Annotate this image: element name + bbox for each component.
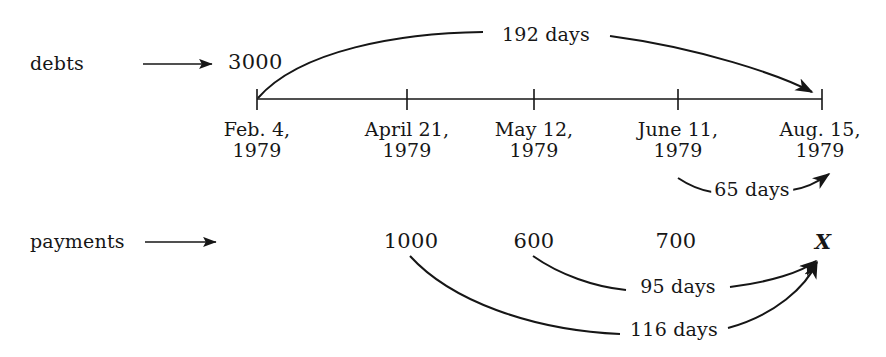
date-label-1: April 21, 1979 bbox=[365, 119, 449, 162]
date-label-1-monthday: April 21, bbox=[365, 119, 449, 140]
date-label-2-monthday: May 12, bbox=[495, 119, 573, 140]
date-label-4: Aug. 15, 1979 bbox=[779, 119, 860, 162]
date-label-0-monthday: Feb. 4, bbox=[224, 119, 290, 140]
row-label-payments: payments bbox=[30, 231, 125, 252]
interval-arc-116-days-left bbox=[410, 256, 620, 334]
date-label-0: Feb. 4, 1979 bbox=[224, 119, 290, 162]
date-label-0-year: 1979 bbox=[224, 140, 290, 161]
date-label-3: June 11, 1979 bbox=[638, 119, 718, 162]
date-label-3-monthday: June 11, bbox=[638, 119, 718, 140]
row-label-debts: debts bbox=[30, 53, 84, 74]
date-label-4-monthday: Aug. 15, bbox=[779, 119, 860, 140]
payment-amount-600: 600 bbox=[514, 230, 555, 254]
debt-amount-3000: 3000 bbox=[228, 51, 283, 75]
date-label-2-year: 1979 bbox=[495, 140, 573, 161]
interval-arc-116-days-right bbox=[728, 262, 817, 328]
date-label-1-year: 1979 bbox=[365, 140, 449, 161]
interval-arc-192-days-left bbox=[258, 32, 483, 98]
interval-arc-95-days-left bbox=[533, 256, 626, 290]
payment-amount-700: 700 bbox=[656, 230, 697, 254]
interval-label-95-days: 95 days bbox=[637, 276, 719, 297]
interval-arc-65-days-right bbox=[792, 174, 829, 190]
date-label-4-year: 1979 bbox=[779, 140, 860, 161]
interval-arc-192-days-right bbox=[610, 36, 812, 92]
interval-label-116-days: 116 days bbox=[627, 319, 721, 340]
interval-label-192-days: 192 days bbox=[499, 24, 593, 45]
payment-amount-1000: 1000 bbox=[384, 230, 439, 254]
time-diagram: debts payments 3000 192 days Feb. 4, 197… bbox=[0, 0, 886, 357]
date-label-2: May 12, 1979 bbox=[495, 119, 573, 162]
date-label-3-year: 1979 bbox=[638, 140, 718, 161]
interval-arc-65-days-left bbox=[678, 178, 712, 192]
interval-label-65-days: 65 days bbox=[711, 179, 793, 200]
payment-amount-unknown-x: X bbox=[815, 230, 831, 254]
